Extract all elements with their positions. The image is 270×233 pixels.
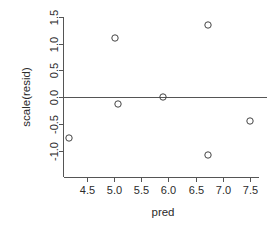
y-tick-label: -1.0: [48, 142, 60, 161]
x-tick-label: 6.5: [189, 184, 204, 196]
x-tick-labels: 4.5 5.0 5.5 6.0 6.5 7.0 7.5: [80, 184, 258, 196]
y-axis-title: scale(resid): [20, 67, 32, 127]
data-point: [115, 101, 121, 107]
x-axis-title: pred: [151, 206, 174, 218]
x-tick-marks: [88, 178, 251, 183]
x-tick-label: 5.0: [107, 184, 122, 196]
x-tick-label: 5.5: [134, 184, 149, 196]
y-tick-label: 1.0: [48, 37, 60, 52]
bottom-edge-spacer: [0, 224, 270, 233]
x-tick-label: 7.5: [243, 184, 258, 196]
scatter-plot-figure: 1.5 1.0 0.5 0.0 -0.5 -1.0 4.5 5.0 5.5 6.…: [0, 0, 270, 233]
plot-canvas: 1.5 1.0 0.5 0.0 -0.5 -1.0 4.5 5.0 5.5 6.…: [0, 0, 270, 233]
data-point: [247, 118, 253, 124]
data-point: [205, 152, 211, 158]
y-tick-labels: 1.5 1.0 0.5 0.0 -0.5 -1.0: [48, 10, 60, 161]
y-tick-label: 0.0: [48, 90, 60, 105]
x-tick-label: 4.5: [80, 184, 95, 196]
data-point: [112, 35, 118, 41]
data-points: [66, 22, 253, 158]
y-tick-label: 0.5: [48, 63, 60, 78]
x-tick-label: 7.0: [216, 184, 231, 196]
data-point: [205, 22, 211, 28]
y-tick-label: -0.5: [48, 115, 60, 134]
x-tick-label: 6.0: [161, 184, 176, 196]
data-point: [66, 135, 72, 141]
y-tick-label: 1.5: [48, 10, 60, 25]
